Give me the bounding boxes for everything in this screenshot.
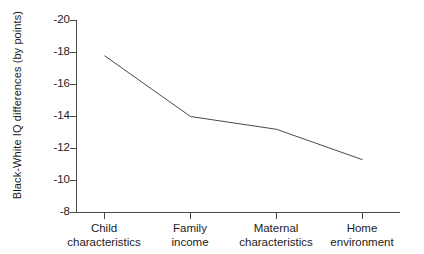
data-series-line	[105, 56, 363, 160]
axes-group	[70, 20, 400, 219]
x-tick-label-home-environment: Home environment	[302, 222, 422, 249]
chart-container: Black-White IQ differences (by points) -…	[0, 0, 424, 254]
plot-svg	[0, 0, 424, 254]
